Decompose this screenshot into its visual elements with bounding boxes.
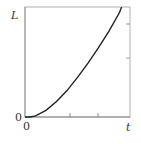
x-axis-label: t [126,121,131,134]
x-origin-label: 0 [23,120,30,133]
y-origin-label: 0 [15,111,22,124]
data-curve [25,7,122,117]
plot-frame [25,7,130,117]
chart-svg: L 0 0 t [0,0,141,144]
y-axis-label: L [10,9,18,22]
